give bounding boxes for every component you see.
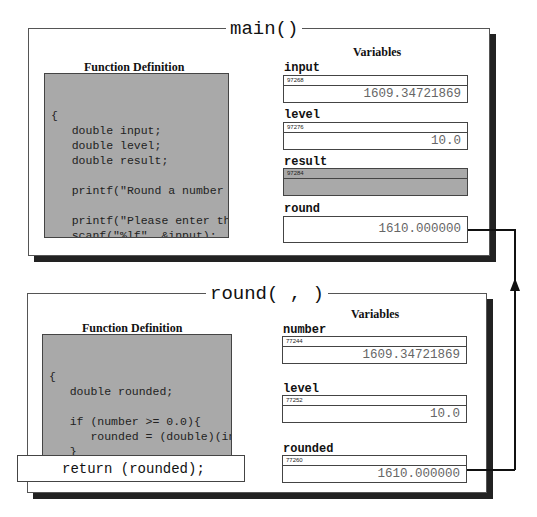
var-address: 97276 xyxy=(284,123,467,133)
var-box-level: 77252 10.0 xyxy=(282,395,467,423)
code-line: double level; xyxy=(51,138,222,153)
connector-horizontal-top xyxy=(468,229,515,231)
var-box-round: 1610.000000 xyxy=(283,216,468,243)
code-line: { xyxy=(51,108,222,123)
main-variables-heading: Variables xyxy=(353,45,401,60)
code-line: rounded = (double)(int) xyxy=(49,429,225,444)
connector-horizontal-bottom xyxy=(467,469,515,471)
code-line: printf("Please enter the xyxy=(51,213,222,228)
var-box-rounded: 77260 1610.000000 xyxy=(282,455,467,483)
main-code-block: { double input; double level; double res… xyxy=(44,73,229,238)
code-line: double input; xyxy=(51,123,222,138)
var-label-result: result xyxy=(284,155,327,169)
code-line xyxy=(51,198,222,213)
var-value: 1610.000000 xyxy=(284,217,467,242)
round-frame-title: round( , ) xyxy=(206,284,328,304)
round-code-block: { double rounded; if (number >= 0.0){ ro… xyxy=(42,334,232,458)
var-label-rounded: rounded xyxy=(283,442,333,456)
var-value: 1609.34721869 xyxy=(283,347,466,364)
connector-vertical-top xyxy=(514,229,516,281)
var-box-number: 77244 1609.34721869 xyxy=(282,336,467,364)
code-line: if (number >= 0.0){ xyxy=(49,414,225,429)
var-address: 97268 xyxy=(284,76,467,86)
var-label-number: number xyxy=(283,323,326,337)
var-value: 10.0 xyxy=(283,406,466,423)
code-line: scanf("%lf", &input); xyxy=(51,228,222,238)
var-address: 77260 xyxy=(283,456,466,466)
code-line: double rounded; xyxy=(49,384,225,399)
var-label-round: round xyxy=(284,202,320,216)
code-line xyxy=(49,399,225,414)
var-address: 77244 xyxy=(283,337,466,347)
code-line: double result; xyxy=(51,153,222,168)
main-frame-title: main() xyxy=(226,19,302,39)
connector-vertical xyxy=(514,282,516,470)
var-address: 97284 xyxy=(284,169,467,179)
var-label-level: level xyxy=(284,108,320,122)
var-value: 1609.34721869 xyxy=(284,86,467,103)
var-box-input: 97268 1609.34721869 xyxy=(283,75,468,103)
code-line: { xyxy=(49,369,225,384)
return-statement-box: return (rounded); xyxy=(17,455,245,482)
code-line xyxy=(51,168,222,183)
var-label-input: input xyxy=(284,61,320,75)
var-label-level: level xyxy=(283,382,319,396)
var-value: 10.0 xyxy=(284,133,467,150)
code-line: printf("Round a number to xyxy=(51,183,222,198)
var-value: 1610.000000 xyxy=(283,466,466,483)
round-variables-heading: Variables xyxy=(351,307,399,322)
var-box-result: 97284 xyxy=(283,168,468,196)
var-address: 77252 xyxy=(283,396,466,406)
var-box-level: 97276 10.0 xyxy=(283,122,468,150)
